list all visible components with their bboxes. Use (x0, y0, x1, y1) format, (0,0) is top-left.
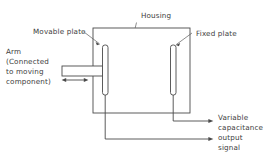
movable-output-arrowhead (208, 137, 213, 141)
fixed-output-arrowhead (208, 119, 213, 123)
output-label-line-1: Variable (218, 113, 249, 122)
movable-plate-output-wire (105, 95, 210, 139)
arm-bar (62, 66, 103, 76)
arm-label-line-3: to moving (6, 67, 44, 76)
output-label-line-3: output (218, 133, 243, 142)
arm-label-line-1: Arm (6, 47, 21, 56)
travel-arrow-head-left (62, 78, 67, 82)
output-label-line-4: signal (218, 143, 240, 152)
fixed-plate-shape (171, 45, 177, 95)
diagram-canvas: Housing Movable plate Fixed plate Arm (C… (0, 0, 275, 157)
fixed-plate-output-wire (173, 95, 210, 121)
output-label-line-2: capacitance (218, 123, 264, 132)
movable-plate-label: Movable plate (33, 27, 86, 36)
transducer-schematic: Housing Movable plate Fixed plate Arm (C… (0, 0, 275, 157)
fixed-plate-label: Fixed plate (196, 29, 237, 38)
movable-plate-leader-line (84, 32, 100, 44)
arm-label-line-4: component) (6, 77, 51, 86)
movable-plate-shape (103, 45, 109, 95)
housing-label: Housing (141, 11, 171, 20)
housing-leader-line (135, 23, 136, 29)
arm-label-line-2: (Connected (6, 57, 49, 66)
travel-arrow-head-right (84, 78, 89, 82)
